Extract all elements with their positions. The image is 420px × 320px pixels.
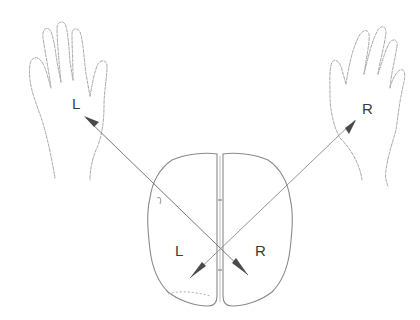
arrowhead-left-hemisphere	[190, 262, 206, 278]
arrow-left-hemisphere-to-right-hand	[190, 120, 356, 278]
left-hand-label: L	[72, 96, 80, 111]
brain-icon	[148, 153, 293, 306]
right-hand-label: R	[362, 101, 373, 116]
right-hemisphere-label: R	[255, 243, 266, 258]
diagram-canvas	[0, 0, 420, 320]
arrowhead-left-hand	[84, 116, 99, 127]
arrowhead-right-hemisphere	[232, 258, 248, 275]
left-hemisphere-outline	[148, 153, 217, 306]
arrowhead-right-hand	[345, 120, 356, 134]
left-hemisphere-label: L	[175, 243, 183, 258]
right-hemisphere-outline	[223, 153, 292, 306]
left-hand-icon	[29, 22, 107, 180]
